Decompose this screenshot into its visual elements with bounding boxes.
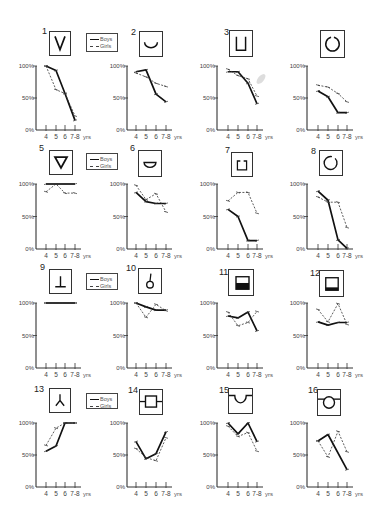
y-tick-label: 50% xyxy=(14,452,34,458)
dashed-line-swatch xyxy=(90,166,99,167)
y-tick-label: 50% xyxy=(105,214,125,220)
legend-item-girls: Girls xyxy=(90,163,115,169)
y-tick-label: 50% xyxy=(105,333,125,339)
x-axis-unit-label: yrs xyxy=(83,134,91,141)
y-tick-label: 50% xyxy=(195,333,215,339)
legend-item-girls: Girls xyxy=(90,403,115,409)
data-point-marker xyxy=(345,227,349,228)
y-tick-label: 100% xyxy=(105,181,125,187)
y-tick-label: 50% xyxy=(195,95,215,101)
stimulus-box xyxy=(228,388,253,414)
x-tick-label: 7-8 xyxy=(159,133,173,140)
y-tick-label: 50% xyxy=(195,214,215,220)
y-tick-label: 50% xyxy=(14,333,34,339)
legend-label-boys: Boys xyxy=(100,276,112,282)
y-tick-label: 0% xyxy=(285,484,305,490)
legend-label-girls: Girls xyxy=(100,163,111,169)
x-axis-unit-label: yrs xyxy=(174,491,182,498)
y-tick-label: 0% xyxy=(195,484,215,490)
legend-item-girls: Girls xyxy=(90,43,115,49)
x-tick-label: 7-8 xyxy=(68,133,82,140)
inverted-triangle-shape-icon xyxy=(50,151,72,174)
y-tick-label: 50% xyxy=(285,333,305,339)
circle-on-line-shape-icon xyxy=(318,390,340,415)
y-tick-label: 50% xyxy=(285,452,305,458)
panel-number: 5 xyxy=(39,144,44,153)
y-tick-label: 100% xyxy=(195,420,215,426)
legend-box: BoysGirls xyxy=(86,153,118,170)
inverted-t-shape-icon xyxy=(50,270,71,293)
panel-number: 11 xyxy=(219,268,228,277)
stimulus-box xyxy=(139,31,163,57)
girls-series-line xyxy=(46,184,75,193)
strip-filled-square-shape-icon xyxy=(320,271,343,296)
dashed-line-swatch xyxy=(90,286,99,287)
data-point-marker xyxy=(154,460,158,461)
figure: BoysGirlsBoysGirlsBoysGirlsBoysGirls1100… xyxy=(0,0,383,522)
y-tick-label: 0% xyxy=(195,246,215,252)
y-tick-label: 50% xyxy=(285,214,305,220)
boys-series-line xyxy=(228,209,257,240)
y-tick-label: 50% xyxy=(285,95,305,101)
data-point-marker xyxy=(255,451,259,452)
y-tick-label: 50% xyxy=(105,452,125,458)
x-tick-label: 7-8 xyxy=(68,490,82,497)
legend-label-girls: Girls xyxy=(100,283,111,289)
x-tick-label: 7-8 xyxy=(68,252,82,259)
y-tick-label: 100% xyxy=(14,181,34,187)
x-axis-unit-label: yrs xyxy=(265,491,273,498)
y-tick-label: 0% xyxy=(105,484,125,490)
girls-series-line xyxy=(136,73,166,86)
data-point-marker xyxy=(255,95,259,96)
x-axis-unit-label: yrs xyxy=(83,253,91,260)
y-tick-label: 0% xyxy=(285,127,305,133)
panel-number: 8 xyxy=(311,147,316,156)
y-tick-label: 100% xyxy=(285,181,305,187)
y-tick-label: 100% xyxy=(195,300,215,306)
stimulus-box xyxy=(319,150,343,176)
stimulus-box xyxy=(228,269,254,296)
x-tick-label: 7-8 xyxy=(250,133,264,140)
panel-number: 1 xyxy=(42,27,47,36)
girls-series-line xyxy=(318,304,347,325)
solid-line-swatch xyxy=(90,39,99,40)
x-tick-label: 7-8 xyxy=(250,490,264,497)
y-tick-label: 100% xyxy=(285,63,305,69)
legend-item-boys: Boys xyxy=(90,156,115,162)
panel-number: 13 xyxy=(34,385,44,394)
y-tick-label: 0% xyxy=(14,484,34,490)
y-tick-label: 100% xyxy=(105,63,125,69)
solid-line-swatch xyxy=(90,399,99,400)
x-axis-unit-label: yrs xyxy=(265,253,273,260)
open-square-top-shape-icon xyxy=(232,153,252,176)
stimulus-box xyxy=(49,150,73,175)
x-tick-label: 7-8 xyxy=(340,252,354,259)
y-tick-label: 100% xyxy=(195,181,215,187)
girls-series-line xyxy=(318,197,347,228)
boys-series-line xyxy=(136,192,166,203)
square-on-line-shape-icon xyxy=(140,390,162,414)
dashed-line-swatch xyxy=(90,406,99,407)
legend-box: BoysGirls xyxy=(86,33,118,52)
boys-series-line xyxy=(318,91,347,113)
y-tick-label: 0% xyxy=(105,246,125,252)
legend-item-boys: Boys xyxy=(90,396,115,402)
x-axis-unit-label: yrs xyxy=(83,372,91,379)
legend-item-boys: Boys xyxy=(90,276,115,282)
x-axis-unit-label: yrs xyxy=(174,134,182,141)
open-circle-side-shape-icon xyxy=(320,151,342,175)
y-tick-label: 100% xyxy=(14,420,34,426)
legend-box: BoysGirls xyxy=(86,273,118,290)
x-tick-label: 7-8 xyxy=(340,490,354,497)
legend-label-boys: Boys xyxy=(100,156,112,162)
stimulus-box xyxy=(229,30,253,57)
x-tick-label: 7-8 xyxy=(159,490,173,497)
y-tick-label: 100% xyxy=(195,63,215,69)
data-point-marker xyxy=(154,304,158,305)
y-tick-label: 0% xyxy=(105,127,125,133)
x-axis-unit-label: yrs xyxy=(174,372,182,379)
y-tick-label: 100% xyxy=(105,420,125,426)
stimulus-box xyxy=(49,388,71,413)
legend-item-boys: Boys xyxy=(90,36,115,42)
girls-series-line xyxy=(228,192,257,213)
